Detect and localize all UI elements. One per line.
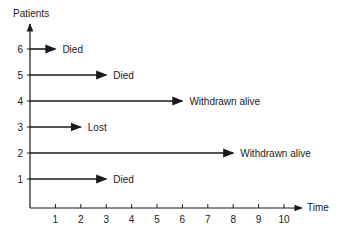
outcome-label: Died	[62, 44, 83, 55]
patient-lines: DiedDiedWithdrawn aliveLostWithdrawn ali…	[30, 44, 311, 185]
outcome-label: Withdrawn alive	[189, 96, 260, 107]
y-axis-label: Patients	[13, 8, 49, 19]
y-tick-label: 3	[17, 122, 23, 133]
x-tick-label: 3	[103, 214, 109, 225]
outcome-label: Withdrawn alive	[240, 148, 311, 159]
x-tick-label: 1	[53, 214, 59, 225]
x-tick-label: 4	[129, 214, 135, 225]
patient-line-1: Died	[30, 174, 134, 185]
patient-line-6: Died	[30, 44, 83, 55]
patient-line-5: Died	[30, 70, 134, 81]
y-tick-label: 5	[17, 70, 23, 81]
x-tick-label: 2	[78, 214, 84, 225]
x-tick-label: 10	[278, 214, 290, 225]
x-tick-label: 7	[205, 214, 211, 225]
x-tick-label: 6	[180, 214, 186, 225]
y-tick-label: 4	[17, 96, 23, 107]
x-axis-label: Time	[307, 202, 329, 213]
y-tick-label: 6	[17, 44, 23, 55]
x-tick-label: 8	[230, 214, 236, 225]
x-tick-label: 9	[256, 214, 262, 225]
outcome-label: Died	[113, 174, 134, 185]
patient-line-2: Withdrawn alive	[30, 148, 311, 159]
patient-line-3: Lost	[30, 122, 107, 133]
patient-followup-chart: 12345678910123456 DiedDiedWithdrawn aliv…	[0, 0, 341, 234]
patient-line-4: Withdrawn alive	[30, 96, 260, 107]
outcome-label: Died	[113, 70, 134, 81]
y-tick-label: 1	[17, 174, 23, 185]
axes: 12345678910123456	[17, 24, 302, 225]
x-tick-label: 5	[154, 214, 160, 225]
y-tick-label: 2	[17, 148, 23, 159]
outcome-label: Lost	[88, 122, 107, 133]
